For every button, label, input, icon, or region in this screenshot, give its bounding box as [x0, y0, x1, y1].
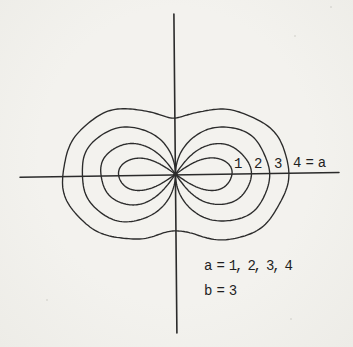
legend-line-b-value: b = 3	[204, 284, 235, 298]
scan-speckle	[294, 35, 296, 37]
plot-canvas	[0, 0, 353, 347]
x-axis-label-2: 2	[254, 157, 260, 171]
legend-line-a-values: a = 1, 2, 3, 4	[204, 259, 291, 273]
scan-speckle	[290, 318, 292, 320]
scan-speckle	[330, 6, 332, 8]
curve-a-2	[101, 144, 176, 206]
x-axis-label-1: 1	[234, 157, 240, 171]
x-axis-label-4-equals-a: 4 = a	[293, 156, 324, 170]
origin-pinch-point	[173, 172, 178, 177]
x-axis-label-3: 3	[274, 157, 280, 171]
scan-speckle	[46, 299, 48, 301]
figure-hippopede-family: 1 2 3 4 = a a = 1, 2, 3, 4 b = 3	[0, 0, 353, 347]
